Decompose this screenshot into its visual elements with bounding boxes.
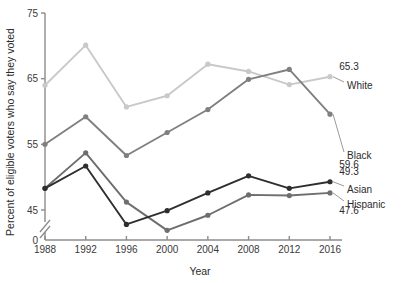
data-point-black-2012 [287,67,292,72]
data-point-black-2016 [327,112,332,117]
series-value-white: 65.3 [339,61,359,72]
x-tick-label: 2004 [197,244,220,255]
chart-figure: 455565750 198819921996200020042008201220… [0,0,405,283]
data-point-asian-1996 [124,222,129,227]
data-point-asian-1988 [42,186,47,191]
data-point-hispanic-1992 [83,150,88,155]
data-point-asian-2004 [205,190,210,195]
series-value-hispanic: 47.6 [339,205,359,216]
x-tick-label: 1992 [75,244,98,255]
y-tick-label: 45 [27,205,39,216]
data-point-white-1992 [83,43,88,48]
data-point-white-1988 [42,83,47,88]
data-point-black-1992 [83,114,88,119]
data-point-asian-2008 [246,173,251,178]
y-axis: 455565750 [27,8,50,246]
series-line-white [45,45,330,107]
data-point-hispanic-2012 [287,193,292,198]
data-point-white-2012 [287,82,292,87]
data-point-white-2008 [246,69,251,74]
x-tick-label: 2008 [237,244,260,255]
x-axis: 19881992199620002004200820122016 [34,236,342,255]
data-point-white-2016 [327,74,332,79]
data-point-asian-2000 [165,208,170,213]
x-tick-label: 1988 [34,244,57,255]
data-point-white-1996 [124,104,129,109]
series-line-black [45,69,330,155]
data-point-asian-2012 [287,186,292,191]
y-axis-title: Percent of eligible voters who say they … [4,28,16,236]
y-tick-label: 75 [27,8,39,19]
x-tick-label: 2012 [278,244,301,255]
x-tick-label: 1996 [115,244,138,255]
voter-turnout-line-chart: 455565750 198819921996200020042008201220… [0,0,405,283]
data-point-hispanic-2000 [165,228,170,233]
series-label-asian: Asian [347,184,372,195]
data-point-hispanic-2004 [205,213,210,218]
series-layer [42,43,332,233]
data-point-black-2000 [165,130,170,135]
x-axis-title: Year [189,265,211,277]
data-point-asian-2016 [327,179,332,184]
series-value-asian: 49.3 [339,166,359,177]
data-point-black-2008 [246,77,251,82]
y-tick-label: 55 [27,139,39,150]
data-point-black-1996 [124,153,129,158]
data-point-black-2004 [205,107,210,112]
data-point-asian-1992 [83,163,88,168]
series-end-labels: White65.3Black59.6Asian49.3Hispanic47.6 [333,61,385,216]
data-point-white-2004 [205,62,210,67]
data-point-hispanic-2008 [246,192,251,197]
data-point-hispanic-2016 [327,190,332,195]
data-point-white-2000 [165,93,170,98]
x-tick-label: 2016 [319,244,342,255]
x-tick-label: 2000 [156,244,179,255]
series-label-white: White [347,80,373,91]
y-tick-label: 65 [27,73,39,84]
data-point-hispanic-1996 [124,200,129,205]
data-point-black-1988 [42,142,47,147]
